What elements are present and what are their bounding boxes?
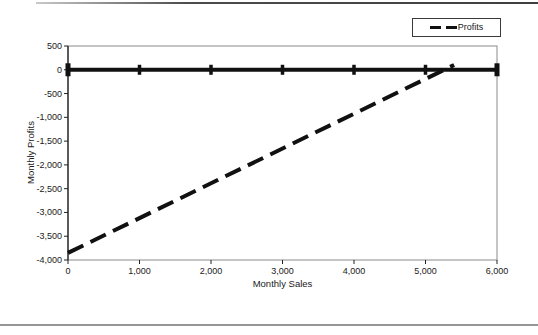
y-axis-title: Monthly Profits — [25, 93, 36, 213]
break-even-level-marker — [281, 65, 285, 75]
plot-area-border — [68, 46, 497, 260]
x-tick-label: 4,000 — [343, 266, 366, 276]
x-tick-label: 6,000 — [486, 266, 509, 276]
x-tick-label: 0 — [65, 266, 70, 276]
x-tick-label: 2,000 — [200, 266, 223, 276]
profits-line — [68, 65, 454, 253]
x-tick-label: 1,000 — [128, 266, 151, 276]
break-even-level-marker — [352, 65, 356, 75]
y-tick-label: -3,500 — [36, 231, 62, 241]
break-even-level-marker — [66, 63, 71, 76]
x-tick-label: 3,000 — [271, 266, 294, 276]
y-tick-label: -1,000 — [36, 112, 62, 122]
y-tick-label: -500 — [44, 89, 62, 99]
break-even-level-marker — [138, 65, 142, 75]
y-tick-label: -3,000 — [36, 207, 62, 217]
y-tick-label: 0 — [57, 65, 62, 75]
y-tick-label: -2,500 — [36, 184, 62, 194]
y-tick-label: -1,500 — [36, 136, 62, 146]
y-tick-label: 500 — [47, 41, 62, 51]
x-tick-label: 5,000 — [414, 266, 437, 276]
y-tick-label: -4,000 — [36, 255, 62, 265]
y-tick-label: -2,000 — [36, 160, 62, 170]
break-even-level-marker — [424, 65, 428, 75]
break-even-level-marker — [209, 65, 213, 75]
bottom-divider — [0, 324, 538, 326]
break-even-level-marker — [495, 63, 500, 76]
scanned-chart-page: Profits 5000-500-1,000-1,500-2,000-2,500… — [0, 0, 538, 335]
x-axis-title: Monthly Sales — [68, 278, 497, 289]
